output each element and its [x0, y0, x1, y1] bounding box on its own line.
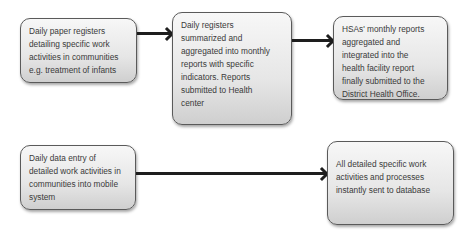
- arrow-mobile-to-database: [136, 172, 325, 175]
- paper-registers-text: Daily paper registers detailing specific…: [29, 25, 128, 77]
- database-box: All detailed specific work activities an…: [327, 141, 454, 225]
- mobile-entry-text: Daily data entry of detailed work activi…: [29, 152, 127, 204]
- arrow-paper-to-summary: [137, 32, 170, 35]
- database-text: All detailed specific work activities an…: [336, 158, 445, 197]
- monthly-summary-text: Daily registers summarized and aggregate…: [181, 19, 283, 110]
- monthly-summary-box: Daily registers summarized and aggregate…: [172, 12, 292, 125]
- arrow-summary-to-district: [292, 39, 331, 42]
- district-report-box: HSAs' monthly reports aggregated and int…: [333, 16, 448, 100]
- paper-registers-box: Daily paper registers detailing specific…: [20, 18, 137, 83]
- district-report-text: HSAs' monthly reports aggregated and int…: [342, 23, 439, 101]
- mobile-entry-box: Daily data entry of detailed work activi…: [20, 145, 136, 210]
